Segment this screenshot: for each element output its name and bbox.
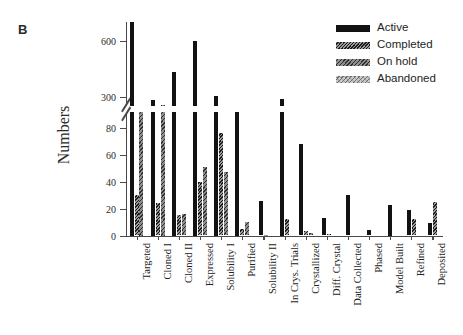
x-tick (348, 236, 349, 240)
x-tick (327, 236, 328, 240)
x-tick (242, 236, 243, 240)
x-tick-label-crystallized: Crystallized (310, 243, 321, 294)
y-axis-title: Numbers (55, 65, 73, 205)
panel-letter: B (18, 22, 27, 37)
x-tick (179, 236, 180, 240)
bar-upper-expressed-active (193, 41, 197, 106)
bar-upper-in-crys-trials-active (280, 99, 284, 106)
chart-legend: ActiveCompletedOn holdAbandoned (336, 20, 436, 88)
x-tick (411, 236, 412, 240)
bar-targeted-on-hold (139, 112, 143, 236)
legend-swatch-active (336, 25, 370, 32)
legend-item-on-hold[interactable]: On hold (336, 54, 436, 70)
bar-diff-crystal-active (322, 218, 326, 235)
bar-purified-completed (240, 229, 244, 236)
bar-data-collected-active (346, 195, 350, 235)
bar-in-crys-trials-completed (285, 219, 289, 235)
bar-model-built-active (388, 205, 392, 236)
bar-cloned-i-completed (156, 203, 160, 235)
bar-cloned-ii-on-hold (182, 214, 186, 235)
x-tick-label-deposited: Deposited (436, 243, 447, 286)
bar-solubility-i-active (214, 112, 218, 236)
bar-in-crys-trials-active (280, 112, 284, 236)
y-tick-label-lower: 60 (76, 149, 116, 160)
bar-crystallized-active (299, 144, 303, 235)
x-tick-label-solubility-i: Solubility I (225, 243, 236, 291)
bar-solubility-i-completed (219, 133, 223, 235)
bar-expressed-active (193, 112, 197, 236)
x-tick-label-expressed: Expressed (204, 243, 215, 286)
x-tick-label-targeted: Targeted (141, 243, 152, 279)
x-tick-label-phased: Phased (373, 243, 384, 273)
legend-label: Abandoned (377, 73, 436, 85)
x-tick-label-refined: Refined (415, 243, 426, 276)
legend-item-active[interactable]: Active (336, 20, 436, 36)
x-tick-label-solubility-ii: Solubility II (267, 243, 278, 294)
legend-item-completed[interactable]: Completed (336, 37, 436, 53)
bar-targeted-completed (135, 195, 139, 235)
y-tick-label-lower: 80 (76, 123, 116, 134)
legend-swatch-on-hold (336, 59, 370, 66)
y-tick-label-upper: 300 (76, 91, 116, 102)
y-tick-label-lower: 0 (76, 230, 116, 241)
x-tick-label-in-crys-trials: In Crys. Trials (289, 243, 300, 303)
bar-expressed-completed (198, 182, 202, 236)
x-tick (137, 236, 138, 240)
x-tick (200, 236, 201, 240)
bar-expressed-on-hold (203, 167, 207, 235)
y-tick-label-lower: 20 (76, 203, 116, 214)
bar-crystallized-on-hold (309, 233, 313, 235)
bar-solubility-i-on-hold (224, 172, 228, 235)
bar-cloned-ii-completed (177, 215, 181, 235)
bar-upper-cloned-i-on-hold (161, 105, 165, 106)
bar-upper-solubility-i-active (214, 96, 218, 106)
bar-crystallized-completed (304, 231, 308, 235)
bar-deposited-active (428, 223, 432, 235)
bar-upper-cloned-ii-active (172, 72, 176, 106)
bar-cloned-i-active (151, 112, 155, 236)
x-tick (390, 236, 391, 240)
x-tick-label-cloned-i: Cloned I (162, 243, 173, 279)
x-tick (432, 236, 433, 240)
legend-swatch-abandoned (336, 76, 370, 83)
bars-lower-band (126, 112, 443, 236)
x-tick-label-diff-crystal: Diff. Crystal (331, 243, 342, 296)
bar-purified-on-hold (245, 222, 249, 235)
bar-cloned-ii-active (172, 112, 176, 236)
bar-refined-completed (412, 219, 416, 235)
x-tick (158, 236, 159, 240)
bar-cloned-i-on-hold (161, 112, 165, 236)
y-tick-label-upper: 600 (76, 35, 116, 46)
x-tick-label-data-collected: Data Collected (352, 243, 363, 306)
x-tick-label-cloned-ii: Cloned II (183, 243, 194, 283)
bar-upper-targeted-active (130, 22, 134, 106)
legend-label: Completed (377, 39, 433, 51)
bar-targeted-active (130, 112, 134, 236)
legend-swatch-completed (336, 42, 370, 49)
legend-label: On hold (377, 56, 417, 68)
bar-solubility-ii-active (259, 201, 263, 236)
x-tick (221, 236, 222, 240)
bar-phased-active (367, 230, 371, 235)
x-tick (369, 236, 370, 240)
y-tick-label-lower: 40 (76, 176, 116, 187)
x-tick (285, 236, 286, 240)
bar-deposited-completed (433, 202, 437, 236)
bar-refined-active (407, 210, 411, 236)
x-tick (263, 236, 264, 240)
figure-panel-b: B Numbers 300600 020406080 TargetedClone… (0, 0, 463, 335)
legend-label: Active (377, 22, 408, 34)
legend-item-abandoned[interactable]: Abandoned (336, 71, 436, 87)
x-tick-label-model-built: Model Built (394, 243, 405, 294)
x-tick (306, 236, 307, 240)
x-tick-label-purified: Purified (246, 243, 257, 277)
bar-purified-active (235, 112, 239, 236)
bar-upper-cloned-i-active (151, 100, 155, 106)
